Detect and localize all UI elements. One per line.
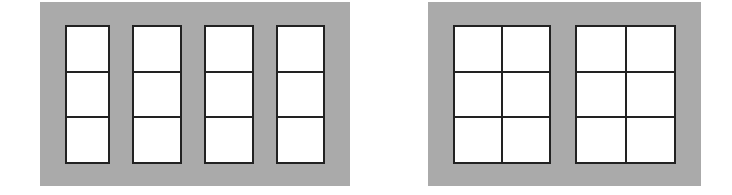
row-divider — [134, 116, 180, 118]
row-divider — [134, 71, 180, 73]
window-unit — [453, 25, 551, 164]
row-divider — [278, 116, 323, 118]
row-divider — [67, 116, 108, 118]
row-divider — [67, 71, 108, 73]
window-unit — [65, 25, 110, 164]
row-divider — [206, 71, 252, 73]
window-unit — [204, 25, 254, 164]
window-unit — [276, 25, 325, 164]
row-divider — [278, 71, 323, 73]
row-divider — [206, 116, 252, 118]
column-divider — [501, 27, 503, 162]
column-divider — [625, 27, 627, 162]
window-unit — [132, 25, 182, 164]
window-unit — [575, 25, 676, 164]
